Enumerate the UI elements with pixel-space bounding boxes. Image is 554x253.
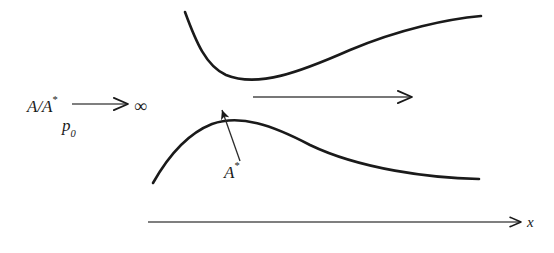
stagnation-pressure-base: p	[62, 116, 71, 135]
area-ratio-base: A/A	[27, 97, 53, 116]
throat-area-label: A*	[224, 163, 240, 181]
throat-pointer-arrow	[222, 110, 240, 161]
throat-area-superscript: *	[234, 160, 239, 171]
stagnation-pressure-subscript: 0	[71, 128, 76, 139]
x-axis-label: x	[527, 215, 534, 230]
nozzle-figure: A/A* ∞ p0 A* x	[0, 0, 554, 253]
throat-area-base: A	[224, 163, 234, 182]
nozzle-diagram-canvas	[0, 0, 554, 253]
infinity-symbol: ∞	[134, 97, 147, 115]
upper-nozzle-wall	[185, 12, 481, 80]
stagnation-pressure-label: p0	[62, 117, 76, 138]
area-ratio-superscript: *	[53, 94, 58, 105]
area-ratio-label: A/A*	[27, 97, 58, 115]
lower-nozzle-wall	[153, 120, 479, 183]
